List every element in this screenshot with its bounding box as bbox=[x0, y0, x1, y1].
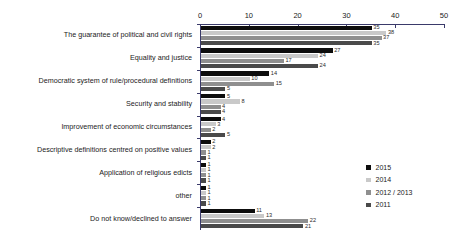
bar bbox=[201, 94, 225, 98]
bar-value-label: 24 bbox=[320, 53, 326, 59]
bar bbox=[201, 54, 318, 58]
legend-item[interactable]: 2015 bbox=[366, 161, 464, 174]
category-label: Equality and justice bbox=[130, 54, 192, 61]
legend-swatch-s2014 bbox=[366, 178, 371, 183]
bar-value-label: 10 bbox=[251, 75, 257, 81]
legend-label: 2015 bbox=[376, 164, 392, 171]
bar-value-label: 5 bbox=[227, 132, 230, 138]
x-tick-50 bbox=[444, 24, 445, 28]
x-tick-40 bbox=[395, 24, 396, 28]
bar bbox=[201, 178, 206, 182]
bar bbox=[201, 26, 372, 30]
bar bbox=[201, 196, 206, 200]
x-tick-label-50: 50 bbox=[440, 11, 448, 20]
bar bbox=[201, 105, 221, 109]
bar-value-label: 13 bbox=[266, 213, 272, 219]
bar bbox=[201, 31, 386, 35]
bar-value-label: 2 bbox=[212, 144, 215, 150]
bar bbox=[201, 156, 206, 160]
legend-swatch-s2011 bbox=[366, 203, 371, 208]
bar-value-label: 1 bbox=[207, 177, 210, 183]
bar bbox=[201, 168, 206, 172]
bar-value-label: 27 bbox=[334, 47, 340, 53]
category-label: Descriptive definitions centred on posit… bbox=[37, 146, 192, 153]
bar-value-label: 3 bbox=[217, 121, 220, 127]
bar-value-label: 14 bbox=[271, 70, 277, 76]
bar bbox=[201, 64, 318, 68]
bar bbox=[201, 201, 206, 205]
bar bbox=[201, 36, 382, 40]
bar bbox=[201, 140, 211, 144]
legend: 201520142012 / 20132011 bbox=[366, 161, 464, 211]
bar bbox=[201, 186, 206, 190]
bar-value-label: 1 bbox=[207, 200, 210, 206]
bar-value-label: 8 bbox=[242, 98, 245, 104]
bar bbox=[201, 99, 240, 103]
bar bbox=[201, 219, 308, 223]
bar-value-label: 24 bbox=[320, 63, 326, 69]
bar bbox=[201, 224, 303, 228]
bar bbox=[201, 133, 225, 137]
bar bbox=[201, 77, 250, 81]
x-tick-label-30: 30 bbox=[342, 11, 350, 20]
category-label: Improvement of economic circumstances bbox=[61, 123, 192, 130]
bar bbox=[201, 209, 255, 213]
category-label: Application of religious edicts bbox=[99, 169, 192, 176]
bar-value-label: 17 bbox=[285, 58, 291, 64]
bar-value-label: 2 bbox=[212, 126, 215, 132]
x-tick-label-10: 10 bbox=[245, 11, 253, 20]
category-label: other bbox=[176, 192, 192, 199]
bar bbox=[201, 128, 211, 132]
x-tick-label-40: 40 bbox=[391, 11, 399, 20]
bar bbox=[201, 82, 274, 86]
bar bbox=[201, 41, 372, 45]
category-label: Do not know/declined to answer bbox=[90, 215, 192, 222]
bar bbox=[201, 150, 206, 154]
bar-value-label: 1 bbox=[207, 154, 210, 160]
bar bbox=[201, 48, 333, 52]
bar-value-label: 15 bbox=[276, 81, 282, 87]
bar bbox=[201, 87, 225, 91]
bar-value-label: 35 bbox=[373, 24, 379, 30]
bar-value-label: 4 bbox=[222, 116, 225, 122]
legend-label: 2012 / 2013 bbox=[376, 189, 413, 196]
bar-value-label: 4 bbox=[222, 109, 225, 115]
legend-swatch-s2015 bbox=[366, 165, 371, 170]
x-tick-label-0: 0 bbox=[198, 11, 202, 20]
bar-chart: The guarantee of political and civil rig… bbox=[0, 0, 469, 240]
bar-value-label: 35 bbox=[373, 40, 379, 46]
legend-item[interactable]: 2011 bbox=[366, 199, 464, 212]
legend-label: 2014 bbox=[376, 176, 392, 183]
bar-value-label: 21 bbox=[305, 223, 311, 229]
category-label: Security and stability bbox=[126, 100, 192, 107]
bar bbox=[201, 214, 264, 218]
bar-value-label: 37 bbox=[383, 35, 389, 41]
legend-item[interactable]: 2012 / 2013 bbox=[366, 186, 464, 199]
bar-value-label: 5 bbox=[227, 86, 230, 92]
bar-value-label: 11 bbox=[256, 208, 262, 214]
x-tick-label-20: 20 bbox=[293, 11, 301, 20]
bar bbox=[201, 173, 206, 177]
legend-swatch-s2013 bbox=[366, 190, 371, 195]
category-label: The guarantee of political and civil rig… bbox=[64, 31, 192, 38]
bar bbox=[201, 71, 269, 75]
bar bbox=[201, 191, 206, 195]
bar bbox=[201, 110, 221, 114]
bar bbox=[201, 163, 206, 167]
category-label: Democratic system of rule/procedural def… bbox=[39, 77, 192, 84]
bar bbox=[201, 59, 284, 63]
legend-item[interactable]: 2014 bbox=[366, 174, 464, 187]
legend-label: 2011 bbox=[376, 201, 391, 208]
bar-value-label: 5 bbox=[227, 93, 230, 99]
